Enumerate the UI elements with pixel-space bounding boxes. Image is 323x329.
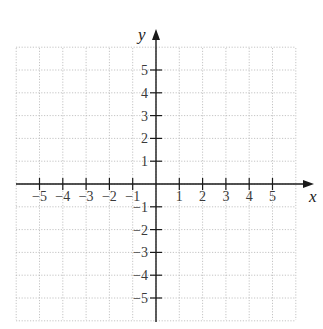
y-tick-label: 3 [141,109,148,124]
x-tick-label: 4 [246,189,253,204]
x-tick-label: −4 [55,189,70,204]
x-tick-label: −2 [102,189,117,204]
y-tick-label: −5 [133,291,148,306]
y-tick-label: −2 [133,223,148,238]
x-tick-label: 1 [176,189,183,204]
y-tick-label: 1 [141,154,148,169]
y-tick-label: −3 [133,245,148,260]
x-tick-label: 2 [199,189,206,204]
y-axis-label: y [136,25,146,44]
x-tick-label: 3 [222,189,229,204]
x-axis-label: x [308,187,317,206]
axes [16,29,314,322]
coordinate-plane-svg: −5−4−3−2−11234554321−1−2−3−4−5 x y [0,0,323,329]
y-tick-label: −4 [133,268,148,283]
x-tick-label: −5 [32,189,47,204]
x-tick-label: 5 [269,189,276,204]
y-tick-label: −1 [133,200,148,215]
y-axis-arrow-icon [152,29,160,40]
y-tick-label: 5 [141,63,148,78]
x-tick-label: −3 [79,189,94,204]
y-tick-label: 4 [141,86,148,101]
y-tick-label: 2 [141,131,148,146]
